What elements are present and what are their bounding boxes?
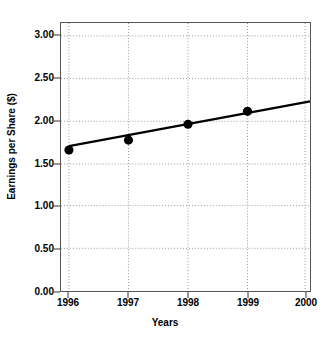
vertical-gridlines bbox=[69, 23, 305, 291]
data-point-1997 bbox=[124, 136, 133, 145]
data-point-1998 bbox=[183, 120, 192, 129]
x-axis-tick-labels: 1996 1997 1998 1999 2000 bbox=[0, 297, 330, 313]
plot-graphics bbox=[61, 23, 310, 291]
plot-area bbox=[60, 22, 311, 292]
x-tick-label-1998: 1998 bbox=[163, 297, 213, 309]
x-tick-label-1996: 1996 bbox=[43, 297, 93, 309]
earnings-per-share-chart: Earnings per Share ($) 3.00 2.50 2.00 1.… bbox=[0, 0, 330, 341]
horizontal-gridlines bbox=[61, 36, 310, 248]
x-tick-label-1999: 1999 bbox=[223, 297, 273, 309]
x-tick-label-2000: 2000 bbox=[281, 297, 330, 309]
x-axis-title: Years bbox=[0, 317, 330, 328]
data-point-1999 bbox=[243, 107, 252, 116]
x-tick-label-1997: 1997 bbox=[103, 297, 153, 309]
data-point-1996 bbox=[64, 145, 73, 154]
